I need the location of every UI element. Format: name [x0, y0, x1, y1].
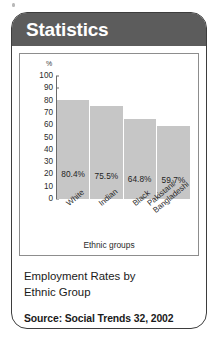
bar-column: 64.8% [124, 76, 157, 199]
bar: 75.5% [90, 106, 123, 199]
y-axis-tick-label: 100 [39, 72, 56, 80]
y-axis-tick-label: 10 [44, 183, 56, 191]
bar-value-label: 80.4% [57, 170, 89, 178]
bar-value-label: 75.5% [90, 172, 122, 180]
x-axis-category-labels: WhiteIndianBlackPakistani/Bangladeshi [57, 199, 190, 233]
bar: 64.8% [124, 119, 157, 199]
page-title: Statistics [26, 20, 108, 39]
caption-title: Employment Rates by Ethnic Group [24, 269, 194, 300]
bar-column: 75.5% [90, 76, 123, 199]
screenshot-stage: Statistics % 1009080706050403020100 80.4… [0, 0, 220, 341]
bar-value-label: 64.8% [124, 175, 156, 183]
caption-title-line-2: Ethnic Group [24, 286, 90, 298]
y-axis-tick-label: 40 [44, 146, 56, 154]
category-label-slot: Indian [90, 199, 123, 233]
caption-block: Employment Rates by Ethnic Group Source:… [12, 256, 206, 324]
y-axis-unit-label: % [46, 60, 52, 67]
bar: 80.4% [57, 100, 90, 199]
caption-title-line-1: Employment Rates by [24, 270, 135, 282]
y-axis-tick-label: 70 [44, 109, 56, 117]
chart-panel: % 1009080706050403020100 80.4%75.5%64.8%… [19, 53, 199, 256]
category-label-slot: Pakistani/Bangladeshi [157, 199, 190, 233]
y-axis-tick-label: 0 [48, 195, 56, 203]
caption-source: Source: Social Trends 32, 2002 [24, 313, 194, 324]
y-axis-tick-label: 30 [44, 158, 56, 166]
statistics-card: Statistics % 1009080706050403020100 80.4… [11, 12, 207, 329]
x-axis-title: Ethnic groups [20, 240, 198, 250]
y-axis-tick-label: 60 [44, 121, 56, 129]
category-label-slot: White [57, 199, 90, 233]
y-axis-tick-label: 50 [44, 133, 56, 141]
scan-speck [12, 3, 15, 7]
y-axis-tick-label: 90 [44, 84, 56, 92]
bar-column: 80.4% [57, 76, 90, 199]
card-header: Statistics [12, 13, 206, 46]
y-axis-tick-label: 80 [44, 96, 56, 104]
y-axis-tick-label: 20 [44, 170, 56, 178]
